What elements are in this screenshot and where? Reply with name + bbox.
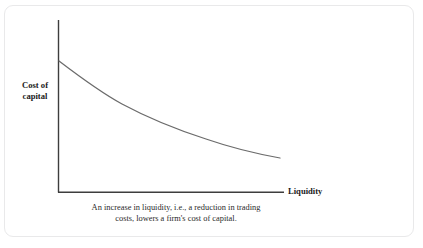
y-axis-label-line-2: capital (16, 91, 54, 102)
caption-line-1: An increase in liquidity, i.e., a reduct… (36, 203, 316, 214)
caption-line-2: costs, lowers a firm's cost of capital. (36, 214, 316, 225)
y-axis-label-line-1: Cost of (16, 80, 54, 91)
cost-of-capital-curve (59, 61, 280, 158)
figure-page: Cost of capital Liquidity An increase in… (0, 0, 423, 248)
cost-of-capital-liquidity-figure: Cost of capital Liquidity An increase in… (0, 0, 423, 248)
y-axis-label: Cost of capital (16, 80, 54, 101)
x-axis-label: Liquidity (288, 186, 322, 197)
figure-caption: An increase in liquidity, i.e., a reduct… (36, 203, 316, 224)
